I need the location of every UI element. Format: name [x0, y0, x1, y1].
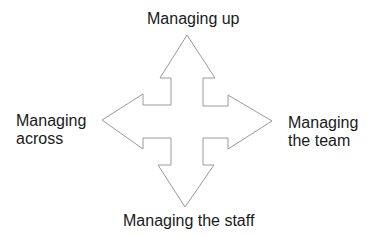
label-managing-the-staff: Managing the staff — [123, 212, 254, 230]
cross-arrow-shape — [102, 35, 272, 207]
label-managing-the-team: Managing the team — [288, 114, 358, 150]
label-line: Managing — [288, 114, 358, 132]
label-line: Managing the staff — [123, 212, 254, 230]
label-line: across — [16, 130, 86, 148]
label-line: Managing up — [147, 10, 240, 28]
label-line: Managing — [16, 112, 86, 130]
label-line: the team — [288, 132, 358, 150]
label-managing-across: Managing across — [16, 112, 86, 148]
label-managing-up: Managing up — [147, 10, 240, 28]
